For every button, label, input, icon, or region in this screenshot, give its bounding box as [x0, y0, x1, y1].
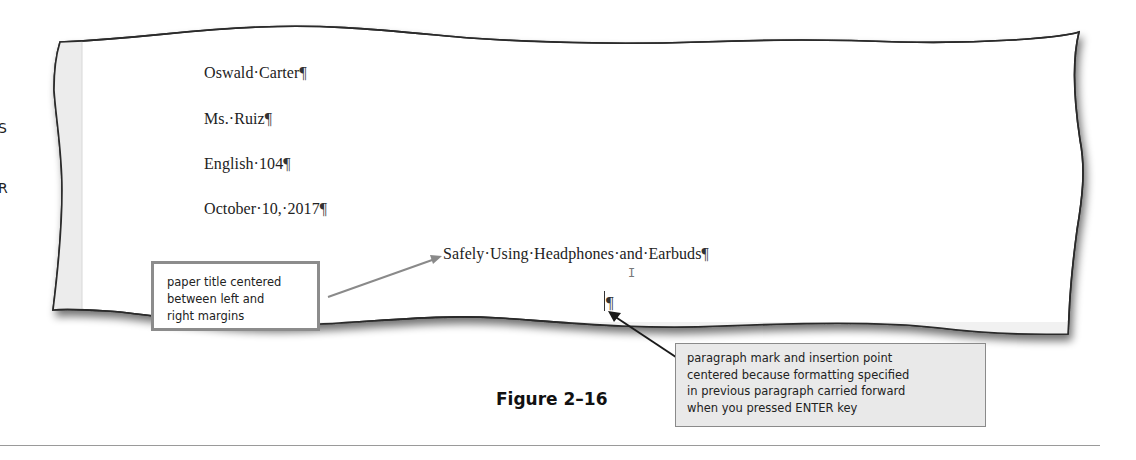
callout-text: centered because formatting specified: [687, 367, 985, 384]
callout-text: paper title centered: [167, 274, 317, 291]
doc-line-date[interactable]: October·10,·2017¶: [204, 200, 327, 218]
paragraph-mark-icon: ¶: [300, 64, 307, 81]
ibeam-cursor-icon: I: [628, 266, 635, 280]
insertion-point: [604, 291, 605, 311]
callout-text: in previous paragraph carried forward: [687, 383, 985, 400]
doc-line-instructor[interactable]: Ms.·Ruiz¶: [204, 110, 272, 128]
doc-line-course[interactable]: English·104¶: [204, 155, 291, 173]
callout-title-centered: paper title centered between left and ri…: [151, 261, 320, 331]
paragraph-mark-icon: ¶: [283, 155, 290, 172]
doc-line-text: English·104: [204, 155, 283, 172]
callout-text: right margins: [167, 308, 317, 325]
empty-paragraph-mark-icon: ¶: [606, 293, 614, 313]
callout-text: when you pressed ENTER key: [687, 400, 985, 417]
doc-line-text: Oswald·Carter: [204, 64, 300, 81]
paragraph-mark-icon: ¶: [265, 110, 272, 127]
paper-title: Safely·Using·Headphones·and·Earbuds: [443, 245, 702, 262]
paragraph-mark-icon: ¶: [702, 245, 709, 262]
divider: [0, 445, 1100, 446]
figure-caption: Figure 2–16: [496, 389, 608, 409]
doc-line-text: October·10,·2017: [204, 200, 320, 217]
doc-title-line[interactable]: Safely·Using·Headphones·and·Earbuds¶: [443, 245, 709, 263]
callout-paragraph-mark: paragraph mark and insertion point cente…: [675, 343, 986, 427]
doc-line-text: Ms.·Ruiz: [204, 110, 265, 127]
doc-line-name[interactable]: Oswald·Carter¶: [204, 64, 307, 82]
callout-text: paragraph mark and insertion point: [687, 350, 985, 367]
paragraph-mark-icon: ¶: [320, 200, 327, 217]
callout-text: between left and: [167, 291, 317, 308]
